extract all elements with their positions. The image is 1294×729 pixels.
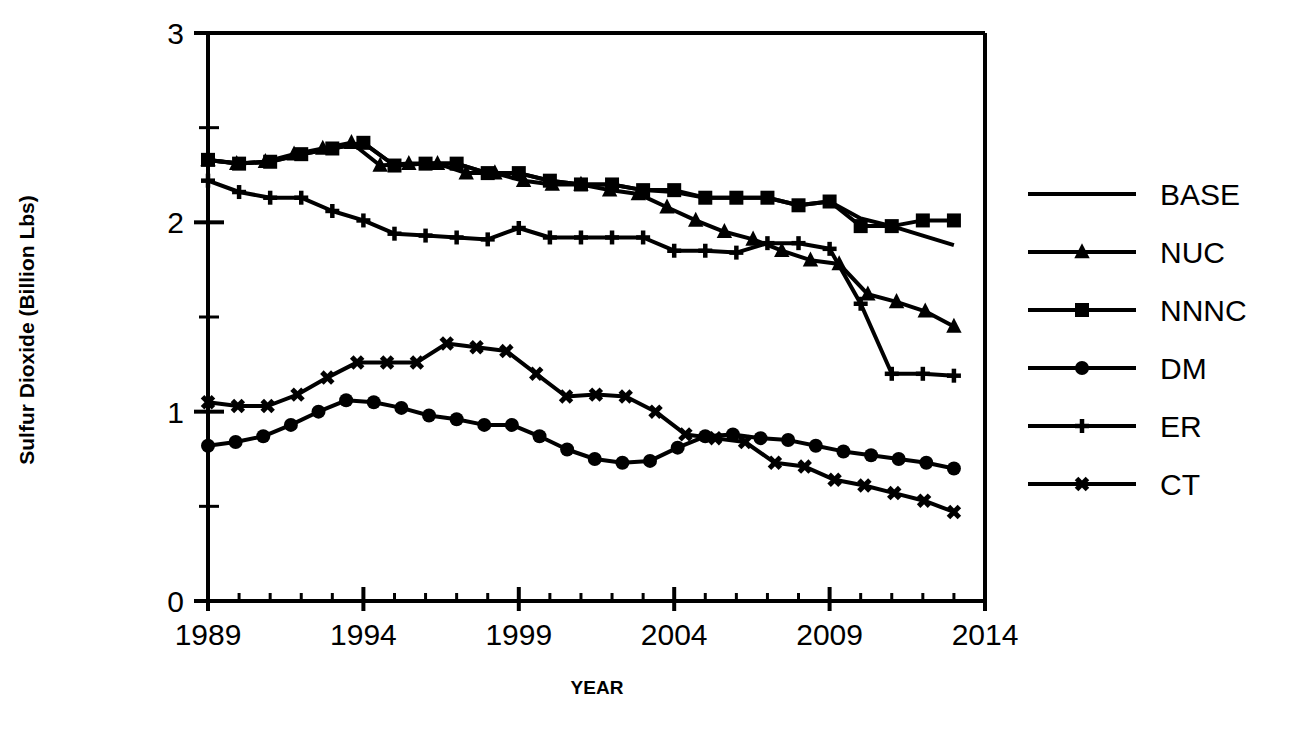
y-tick-label: 2 bbox=[167, 206, 184, 239]
data-point-plus bbox=[1075, 419, 1089, 433]
legend-label-ER: ER bbox=[1160, 410, 1202, 443]
data-point-circle bbox=[947, 461, 961, 475]
data-point-square bbox=[543, 174, 557, 188]
y-tick-label: 1 bbox=[167, 396, 184, 429]
data-point-plus bbox=[232, 185, 246, 199]
data-point-circle bbox=[533, 429, 547, 443]
data-point-plus bbox=[947, 369, 961, 383]
y-tick-label: 3 bbox=[167, 17, 184, 50]
data-point-plus bbox=[294, 191, 308, 205]
x-tick-label: 1989 bbox=[175, 618, 242, 651]
series-NNNC bbox=[201, 136, 961, 233]
data-point-plus bbox=[263, 191, 277, 205]
data-point-circle bbox=[229, 435, 243, 449]
x-tick-label: 1999 bbox=[485, 618, 552, 651]
data-point-plus bbox=[419, 229, 433, 243]
legend-item-NUC[interactable]: NUC bbox=[1028, 236, 1225, 269]
legend-item-BASE[interactable]: BASE bbox=[1028, 178, 1240, 211]
data-point-square bbox=[792, 198, 806, 212]
data-point-circle bbox=[367, 395, 381, 409]
data-point-square bbox=[356, 136, 370, 150]
data-point-square bbox=[885, 219, 899, 233]
x-tick-labels: 198919941999200420092014 bbox=[175, 618, 1019, 651]
data-series bbox=[200, 134, 961, 517]
data-point-square bbox=[419, 157, 433, 171]
data-point-plus bbox=[512, 221, 526, 235]
x-tick-label: 2004 bbox=[641, 618, 708, 651]
legend-item-ER[interactable]: ER bbox=[1028, 410, 1202, 443]
data-point-square bbox=[263, 155, 277, 169]
data-point-square bbox=[823, 195, 837, 209]
data-point-circle bbox=[312, 405, 326, 419]
data-point-square bbox=[729, 191, 743, 205]
data-point-square bbox=[667, 183, 681, 197]
data-point-square bbox=[1075, 303, 1089, 317]
legend-item-CT[interactable]: CT bbox=[1028, 468, 1200, 501]
data-point-square bbox=[636, 183, 650, 197]
x-tick-label: 2014 bbox=[952, 618, 1019, 651]
data-point-circle bbox=[892, 452, 906, 466]
tick-marks bbox=[194, 33, 985, 611]
data-point-square bbox=[201, 153, 215, 167]
series-CT bbox=[203, 338, 960, 517]
data-point-plus bbox=[667, 244, 681, 258]
y-tick-labels: 0123 bbox=[167, 17, 184, 618]
data-point-circle bbox=[450, 412, 464, 426]
legend-label-BASE: BASE bbox=[1160, 178, 1240, 211]
data-point-circle bbox=[201, 439, 215, 453]
legend-label-NNNC: NNNC bbox=[1160, 294, 1247, 327]
legend-label-NUC: NUC bbox=[1160, 236, 1225, 269]
data-point-plus bbox=[356, 213, 370, 227]
data-point-plus bbox=[450, 230, 464, 244]
data-point-square bbox=[387, 159, 401, 173]
data-point-square bbox=[232, 157, 246, 171]
legend-label-CT: CT bbox=[1160, 468, 1200, 501]
data-point-plus bbox=[481, 232, 495, 246]
data-point-circle bbox=[505, 418, 519, 432]
data-point-circle bbox=[394, 401, 408, 415]
data-point-circle bbox=[560, 443, 574, 457]
data-point-plus bbox=[574, 230, 588, 244]
series-ER bbox=[201, 174, 961, 383]
data-point-circle bbox=[422, 408, 436, 422]
legend-label-DM: DM bbox=[1160, 352, 1207, 385]
data-point-square bbox=[698, 191, 712, 205]
data-point-circle bbox=[836, 444, 850, 458]
data-point-plus bbox=[792, 236, 806, 250]
data-point-square bbox=[450, 157, 464, 171]
series-DM bbox=[201, 393, 961, 475]
data-point-plus bbox=[605, 230, 619, 244]
data-point-square bbox=[574, 177, 588, 191]
data-point-circle bbox=[754, 431, 768, 445]
y-axis-title: Sulfur Dioxide (Billion Lbs) bbox=[15, 195, 38, 465]
data-point-plus bbox=[325, 204, 339, 218]
data-point-circle bbox=[671, 441, 685, 455]
data-point-square bbox=[760, 191, 774, 205]
data-point-circle bbox=[615, 456, 629, 470]
legend-item-DM[interactable]: DM bbox=[1028, 352, 1207, 385]
data-point-square bbox=[325, 141, 339, 155]
legend-item-NNNC[interactable]: NNNC bbox=[1028, 294, 1247, 327]
data-point-plus bbox=[729, 246, 743, 260]
data-point-plus bbox=[201, 174, 215, 188]
data-point-plus bbox=[698, 244, 712, 258]
line-chart: Sulfur Dioxide (Billion Lbs) YEAR 198919… bbox=[0, 0, 1294, 729]
data-point-square bbox=[605, 177, 619, 191]
data-point-circle bbox=[256, 429, 270, 443]
data-point-square bbox=[512, 166, 526, 180]
data-point-plus bbox=[387, 227, 401, 241]
series-BASE bbox=[208, 143, 954, 245]
data-point-circle bbox=[643, 454, 657, 468]
data-point-circle bbox=[588, 452, 602, 466]
data-point-plus bbox=[916, 367, 930, 381]
data-point-square bbox=[916, 213, 930, 227]
data-point-circle bbox=[781, 433, 795, 447]
data-point-square bbox=[481, 166, 495, 180]
x-axis-title: YEAR bbox=[571, 677, 624, 698]
data-point-square bbox=[854, 219, 868, 233]
chart-figure: Sulfur Dioxide (Billion Lbs) YEAR 198919… bbox=[0, 0, 1294, 729]
data-point-plus bbox=[636, 230, 650, 244]
data-point-circle bbox=[809, 439, 823, 453]
data-point-circle bbox=[284, 418, 298, 432]
y-tick-label: 0 bbox=[167, 585, 184, 618]
